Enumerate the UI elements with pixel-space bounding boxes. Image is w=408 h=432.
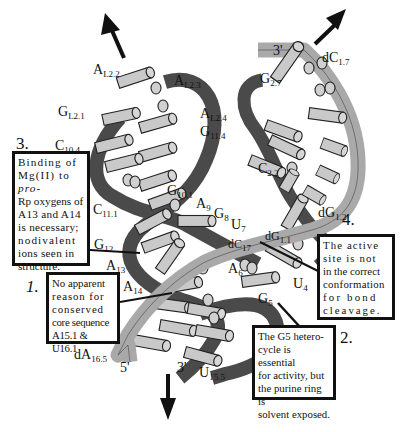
label-U4: U4 — [293, 277, 308, 293]
annotation-box-2: The G5 hetero- cycle is essential for ac… — [252, 325, 336, 400]
annotation-number-4: 4. — [342, 211, 355, 228]
label-3prime-top: 3' — [273, 44, 283, 58]
label-dG1.1: dG1.1 — [265, 230, 291, 245]
annotation-box-4: The active site is not in the correct co… — [317, 234, 395, 320]
label-A9: A9 — [196, 197, 211, 213]
label-G8: G8 — [214, 207, 229, 223]
annotation-number-3: 3. — [16, 135, 29, 152]
label-G5: G5 — [258, 292, 273, 308]
arrow-up-left-icon — [101, 13, 124, 58]
label-A6: A6 — [228, 262, 243, 278]
label-dC1.7: dC1.7 — [322, 51, 350, 67]
label-A-L2.2: AL2.2 — [93, 63, 120, 79]
label-C-11.1: C11.1 — [93, 203, 118, 219]
label-G2.7: G2.7 — [260, 72, 281, 88]
label-5prime-bottom: 5' — [120, 361, 130, 375]
label-G-11.4: G11.4 — [200, 125, 226, 141]
label-G12: G12 — [94, 238, 113, 254]
label-G-10.1: G10.1 — [167, 184, 193, 200]
hammerhead-ribozyme-diagram: AL2.2 AL2.3 AL2.4 GL2.1 G11.4 C10.4 G10.… — [0, 0, 408, 432]
label-A-L2.4: AL2.4 — [200, 107, 227, 123]
label-U7: U7 — [231, 218, 246, 234]
arrow-up-right-icon — [315, 9, 346, 44]
arrow-down-icon — [160, 374, 176, 420]
label-3prime-bottom: 3' — [177, 361, 187, 375]
annotation-box-1: No apparent reason for conserved core se… — [46, 272, 120, 344]
annotation-number-1: 1. — [26, 278, 39, 295]
label-U15.5: U15.5 — [199, 366, 225, 382]
label-dC17: dC17 — [228, 238, 251, 253]
label-G-L2.1: GL2.1 — [58, 105, 85, 121]
annotation-box-3: Binding of Mg(II) to pro- Rp oxygens of … — [12, 151, 90, 266]
leader-line-4 — [260, 242, 320, 272]
label-C2.2: C2.2 — [258, 162, 279, 178]
annotation-number-2: 2. — [340, 329, 353, 346]
label-A14: A14 — [123, 280, 142, 296]
label-A-L2.3: AL2.3 — [174, 74, 201, 90]
